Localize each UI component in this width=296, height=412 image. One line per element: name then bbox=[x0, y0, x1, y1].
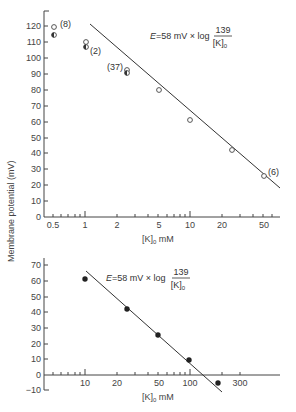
svg-text:60: 60 bbox=[31, 276, 41, 286]
svg-text:10: 10 bbox=[80, 378, 90, 388]
bottom-nernst-line bbox=[86, 271, 222, 392]
top-x-tick-labels: 0.5 1 2 5 10 20 50 bbox=[47, 220, 269, 230]
svg-text:10: 10 bbox=[31, 354, 41, 364]
top-y-ticks: 120 110 100 90 80 70 60 50 40 30 20 10 0 bbox=[26, 21, 48, 222]
y-axis-title: Membrane potential (mV) bbox=[6, 160, 16, 262]
bottom-equation: E=58 mV × log 139 [K]0 bbox=[106, 267, 190, 291]
svg-text:(8): (8) bbox=[60, 19, 71, 29]
svg-text:50: 50 bbox=[31, 292, 41, 302]
svg-text:50: 50 bbox=[154, 378, 164, 388]
top-x-axis-title: [K]0 mM bbox=[142, 234, 174, 245]
chart-figure: 120 110 100 90 80 70 60 50 40 30 20 10 0 bbox=[0, 0, 296, 412]
svg-text:5: 5 bbox=[156, 220, 161, 230]
svg-text:20: 20 bbox=[31, 180, 41, 190]
svg-text:30: 30 bbox=[31, 164, 41, 174]
svg-text:10: 10 bbox=[185, 220, 195, 230]
svg-text:[K]0: [K]0 bbox=[213, 38, 228, 49]
bottom-x-ticks bbox=[53, 369, 240, 375]
svg-text:70: 70 bbox=[31, 101, 41, 111]
bottom-x-tick-labels: 10 20 50 100 300 bbox=[80, 378, 248, 388]
svg-text:20: 20 bbox=[31, 339, 41, 349]
svg-text:90: 90 bbox=[31, 69, 41, 79]
bottom-x-axis-title: [K]0 mM bbox=[142, 392, 174, 403]
svg-text:80: 80 bbox=[31, 85, 41, 95]
svg-text:1: 1 bbox=[82, 220, 87, 230]
svg-text:E=58 mV × log: E=58 mV × log bbox=[150, 31, 210, 41]
svg-text:300: 300 bbox=[232, 378, 247, 388]
bottom-chart: 70 60 50 40 30 20 10 0 −10 bbox=[26, 258, 280, 403]
svg-text:(2): (2) bbox=[90, 46, 101, 56]
top-chart: 120 110 100 90 80 70 60 50 40 30 20 10 0 bbox=[26, 11, 280, 245]
top-x-ticks bbox=[53, 211, 272, 217]
svg-text:100: 100 bbox=[182, 378, 197, 388]
bottom-data-points bbox=[82, 276, 220, 385]
svg-text:20: 20 bbox=[112, 378, 122, 388]
svg-text:139: 139 bbox=[173, 267, 188, 277]
svg-text:0: 0 bbox=[36, 370, 41, 380]
svg-text:50: 50 bbox=[31, 133, 41, 143]
svg-text:100: 100 bbox=[26, 53, 41, 63]
top-equation: E=58 mV × log 139 [K]0 bbox=[150, 25, 232, 49]
svg-text:139: 139 bbox=[215, 25, 230, 35]
svg-text:2: 2 bbox=[114, 220, 119, 230]
svg-text:60: 60 bbox=[31, 117, 41, 127]
svg-text:110: 110 bbox=[27, 37, 41, 47]
svg-text:E=58 mV × log: E=58 mV × log bbox=[106, 273, 166, 283]
svg-text:30: 30 bbox=[31, 323, 41, 333]
svg-text:70: 70 bbox=[31, 260, 41, 270]
svg-text:120: 120 bbox=[26, 21, 41, 31]
svg-text:10: 10 bbox=[31, 196, 41, 206]
svg-text:(37): (37) bbox=[107, 62, 123, 72]
svg-text:50: 50 bbox=[259, 220, 269, 230]
svg-text:(6): (6) bbox=[268, 167, 279, 177]
svg-text:[K]0: [K]0 bbox=[171, 280, 186, 291]
svg-text:0.5: 0.5 bbox=[47, 220, 60, 230]
svg-text:0: 0 bbox=[36, 212, 41, 222]
svg-text:20: 20 bbox=[217, 220, 227, 230]
top-nernst-line bbox=[90, 24, 280, 188]
svg-text:40: 40 bbox=[31, 148, 41, 158]
svg-text:40: 40 bbox=[31, 307, 41, 317]
svg-text:−10: −10 bbox=[26, 385, 41, 395]
top-data-points: (8) (2) (37) (6) bbox=[52, 19, 279, 178]
